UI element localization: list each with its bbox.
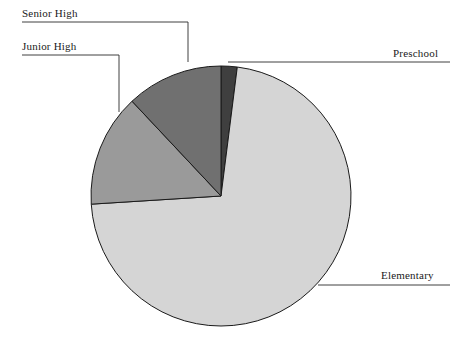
- pie-label-junior-high: Junior High: [22, 40, 76, 53]
- pie-chart-figure: Senior High Junior High Preschool Elemen…: [0, 0, 468, 347]
- pie-slice-group: [91, 66, 351, 326]
- leader-line-junior-high: [22, 55, 119, 112]
- pie-label-senior-high: Senior High: [22, 7, 78, 20]
- pie-label-elementary: Elementary: [381, 269, 434, 282]
- pie-label-preschool: Preschool: [393, 47, 438, 60]
